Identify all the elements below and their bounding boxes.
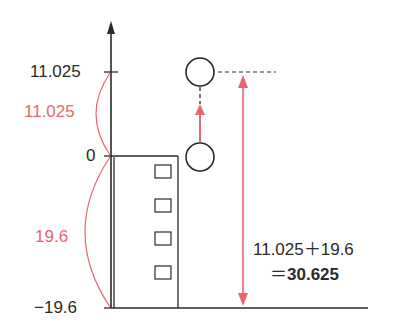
upper-bracket-arc xyxy=(96,73,110,155)
window-icon xyxy=(155,266,171,279)
equals-sign: ＝ xyxy=(270,265,287,284)
window-icon xyxy=(155,165,171,178)
ball-launch-icon xyxy=(186,143,214,171)
ball-rise-arrowhead-icon xyxy=(195,104,205,115)
total-value: 30.625 xyxy=(287,265,339,284)
y-axis-arrow-icon xyxy=(107,21,115,34)
total-result: ＝30.625 xyxy=(270,266,339,283)
building xyxy=(111,156,178,308)
total-height-arrowhead-down-icon xyxy=(238,293,248,306)
lower-bracket-label: 19.6 xyxy=(35,228,68,245)
tick-label-zero: 0 xyxy=(86,147,95,164)
upper-bracket-label: 11.025 xyxy=(24,103,75,120)
total-height-arrowhead-up-icon xyxy=(238,75,248,88)
tick-label-bottom: −19.6 xyxy=(34,299,77,316)
diagram-canvas xyxy=(0,0,411,335)
lower-bracket-arc xyxy=(85,157,110,307)
ball-top-icon xyxy=(186,58,214,86)
tick-label-top: 11.025 xyxy=(30,63,81,80)
window-icon xyxy=(155,199,171,212)
total-expression: 11.025＋19.6 xyxy=(253,241,354,258)
window-icon xyxy=(155,232,171,245)
